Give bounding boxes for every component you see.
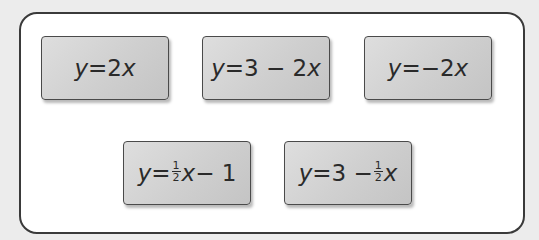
variable-x: x	[384, 160, 398, 186]
variable-x: x	[122, 55, 136, 81]
equals-sign: =	[312, 160, 331, 186]
numerator: 1	[374, 160, 383, 172]
equals-sign: =	[151, 160, 170, 186]
constant-term: − 1	[195, 160, 236, 186]
denominator: 2	[375, 172, 382, 183]
equals-sign: =	[401, 55, 420, 81]
equals-sign: =	[225, 55, 244, 81]
variable-x: x	[307, 55, 321, 81]
numerator: 1	[172, 160, 181, 172]
coefficient: 2	[107, 55, 122, 81]
equals-sign: =	[88, 55, 107, 81]
fraction-one-half: 1 2	[172, 160, 181, 183]
variable-y: y	[388, 55, 402, 81]
constant-term: 3 −	[332, 160, 373, 186]
coefficient: −2	[421, 55, 455, 81]
equation-card-y-equals-3-minus-2x[interactable]: y = 3 − 2 x	[202, 36, 330, 100]
variable-y: y	[211, 55, 225, 81]
equation-card-y-equals-3-minus-half-x[interactable]: y = 3 − 1 2 x	[284, 141, 412, 205]
equation-card-y-equals-neg-2x[interactable]: y = −2 x	[364, 36, 492, 100]
variable-x: x	[182, 160, 196, 186]
equation-card-y-equals-half-x-minus-1[interactable]: y = 1 2 x − 1	[123, 141, 251, 205]
fraction-one-half: 1 2	[374, 160, 383, 183]
variable-y: y	[138, 160, 152, 186]
variable-y: y	[74, 55, 88, 81]
equation-card-y-equals-2x[interactable]: y = 2 x	[41, 36, 169, 100]
denominator: 2	[173, 172, 180, 183]
expression: 3 − 2	[244, 55, 307, 81]
variable-x: x	[455, 55, 469, 81]
variable-y: y	[299, 160, 313, 186]
